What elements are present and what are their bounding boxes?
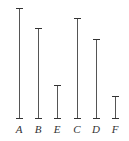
segment-label-a: A (11, 123, 27, 135)
segment-f (115, 96, 116, 118)
segment-label-d: D (88, 123, 104, 135)
top-cap-d (93, 39, 100, 40)
top-cap-c (74, 18, 81, 19)
segment-b (38, 28, 39, 118)
bottom-cap-f (112, 118, 119, 119)
top-cap-f (112, 96, 119, 97)
segment-label-b: B (30, 123, 46, 135)
top-cap-b (35, 28, 42, 29)
bottom-cap-d (93, 118, 100, 119)
segment-label-e: E (49, 123, 65, 135)
bottom-cap-a (16, 118, 23, 119)
segment-a (19, 8, 20, 118)
segment-label-f: F (107, 123, 123, 135)
segment-label-c: C (69, 123, 85, 135)
bottom-cap-e (54, 118, 61, 119)
bottom-cap-c (74, 118, 81, 119)
bottom-cap-b (35, 118, 42, 119)
segment-c (77, 18, 78, 118)
segment-d (96, 39, 97, 118)
top-cap-a (16, 8, 23, 9)
top-cap-e (54, 85, 61, 86)
segment-e (57, 85, 58, 118)
